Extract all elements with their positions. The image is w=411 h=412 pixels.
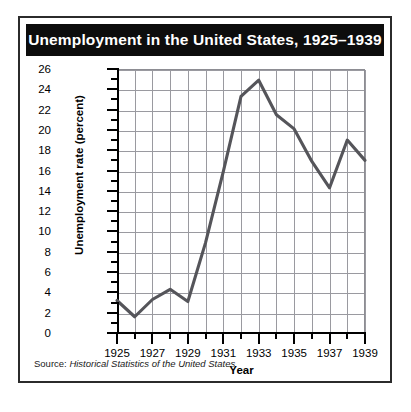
y-axis-minor-tick bbox=[111, 200, 119, 202]
y-axis-tick-label: 10 bbox=[0, 225, 51, 237]
gridline-vertical bbox=[241, 70, 242, 333]
source-prefix: Source: bbox=[34, 358, 69, 369]
gridline-vertical bbox=[223, 70, 224, 333]
y-axis-tick bbox=[107, 170, 119, 172]
x-axis-minor-tick bbox=[240, 332, 242, 339]
y-axis-tick-label: 12 bbox=[0, 205, 51, 217]
y-axis-minor-tick bbox=[111, 220, 119, 222]
y-axis-minor-tick bbox=[111, 98, 119, 100]
y-axis-tick-label: 6 bbox=[0, 266, 51, 278]
gridline-vertical bbox=[152, 70, 153, 333]
y-axis-minor-tick bbox=[111, 180, 119, 182]
y-axis-tick bbox=[107, 149, 119, 151]
x-axis-minor-tick bbox=[346, 332, 348, 339]
plot-area bbox=[117, 69, 365, 333]
x-axis-tick-label: 1933 bbox=[246, 347, 272, 359]
y-axis-tick bbox=[107, 88, 119, 90]
gridline-vertical bbox=[276, 70, 277, 333]
x-axis-minor-tick bbox=[169, 332, 171, 339]
x-axis-tick bbox=[116, 332, 118, 344]
x-axis-tick-label: 1939 bbox=[352, 347, 378, 359]
y-axis-minor-tick bbox=[111, 281, 119, 283]
plot-region: Unemployment rate (percent) Year 0246810… bbox=[25, 61, 385, 379]
y-axis-minor-tick bbox=[111, 261, 119, 263]
y-axis-minor-tick bbox=[111, 159, 119, 161]
x-axis-minor-tick bbox=[311, 332, 313, 339]
y-axis-tick-label: 16 bbox=[0, 165, 51, 177]
x-axis-minor-tick bbox=[134, 332, 136, 339]
y-axis-minor-tick bbox=[111, 322, 119, 324]
y-axis-tick bbox=[107, 210, 119, 212]
y-axis-tick bbox=[107, 291, 119, 293]
x-axis-tick bbox=[151, 332, 153, 344]
y-axis-tick bbox=[107, 230, 119, 232]
x-axis-tick bbox=[329, 332, 331, 344]
y-axis-tick-label: 8 bbox=[0, 246, 51, 258]
y-axis-tick bbox=[107, 68, 119, 70]
y-axis-minor-tick bbox=[111, 119, 119, 121]
x-axis-tick-label: 1935 bbox=[281, 347, 307, 359]
gridline-vertical bbox=[330, 70, 331, 333]
y-axis-tick-label: 24 bbox=[0, 83, 51, 95]
y-axis-tick bbox=[107, 190, 119, 192]
y-axis-tick-label: 14 bbox=[0, 185, 51, 197]
y-axis-tick-label: 18 bbox=[0, 144, 51, 156]
gridline-vertical bbox=[170, 70, 171, 333]
chart-figure: Unemployment in the United States, 1925–… bbox=[18, 16, 392, 383]
x-axis-tick bbox=[258, 332, 260, 344]
x-axis-minor-tick bbox=[205, 332, 207, 339]
gridline-vertical bbox=[135, 70, 136, 333]
y-axis-tick bbox=[107, 129, 119, 131]
x-axis-tick-label: 1937 bbox=[317, 347, 343, 359]
gridline-vertical bbox=[294, 70, 295, 333]
gridline-vertical bbox=[365, 70, 366, 333]
x-axis-tick bbox=[222, 332, 224, 344]
y-axis-minor-tick bbox=[111, 241, 119, 243]
y-axis-minor-tick bbox=[111, 302, 119, 304]
y-axis-label: Unemployment rate (percent) bbox=[73, 75, 85, 275]
y-axis-tick-label: 0 bbox=[0, 327, 51, 339]
x-axis-tick bbox=[364, 332, 366, 344]
gridline-vertical bbox=[347, 70, 348, 333]
x-axis-tick bbox=[187, 332, 189, 344]
y-axis-minor-tick bbox=[111, 78, 119, 80]
source-note: Source: Historical Statistics of the Uni… bbox=[34, 358, 235, 369]
y-axis-tick-label: 2 bbox=[0, 307, 51, 319]
source-title: Historical Statistics of the United Stat… bbox=[69, 358, 235, 369]
y-axis-tick-label: 22 bbox=[0, 104, 51, 116]
y-axis-tick bbox=[107, 271, 119, 273]
x-axis-minor-tick bbox=[275, 332, 277, 339]
y-axis-tick-label: 20 bbox=[0, 124, 51, 136]
gridline-vertical bbox=[312, 70, 313, 333]
y-axis-minor-tick bbox=[111, 139, 119, 141]
y-axis-tick-label: 4 bbox=[0, 286, 51, 298]
gridline-vertical bbox=[206, 70, 207, 333]
y-axis-tick bbox=[107, 109, 119, 111]
y-axis-tick bbox=[107, 251, 119, 253]
x-axis-tick bbox=[293, 332, 295, 344]
gridline-vertical bbox=[188, 70, 189, 333]
gridline-vertical bbox=[259, 70, 260, 333]
y-axis-tick-label: 26 bbox=[0, 63, 51, 75]
page-title: Unemployment in the United States, 1925–… bbox=[26, 31, 384, 49]
y-axis-tick bbox=[107, 312, 119, 314]
chart-title-bar: Unemployment in the United States, 1925–… bbox=[25, 23, 385, 57]
